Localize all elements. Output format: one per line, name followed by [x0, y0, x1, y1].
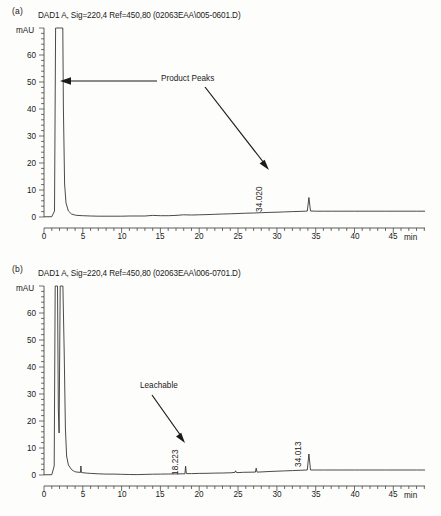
- chromatogram-panel-a: (a) DAD1 A, Sig=220,4 Ref=450,80 (02063E…: [0, 0, 441, 258]
- y-axis-ticks-a: [39, 28, 44, 217]
- x-axis-ticks-a: [44, 228, 424, 233]
- chromatogram-plot-b: [0, 258, 441, 516]
- chromatogram-trace-b: [44, 286, 425, 475]
- chromatogram-plot-a: [0, 0, 441, 258]
- annotation-arrow-leachable: [152, 395, 185, 443]
- x-axis-ticks-b: [44, 486, 424, 491]
- y-axis-ticks-b: [39, 286, 44, 475]
- figure-container: (a) DAD1 A, Sig=220,4 Ref=450,80 (02063E…: [0, 0, 441, 516]
- annotation-arrow-diagonal-a: [205, 87, 269, 170]
- chromatogram-trace-a: [44, 28, 425, 217]
- annotation-arrow-left-a: [60, 77, 157, 85]
- chromatogram-panel-b: (b) DAD1 A, Sig=220,4 Ref=450,80 (02063E…: [0, 258, 441, 516]
